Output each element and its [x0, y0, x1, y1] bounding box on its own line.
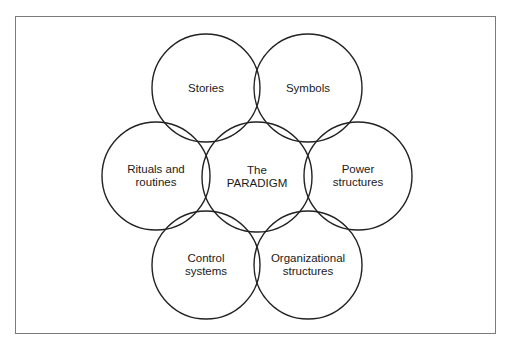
label-line: Symbols	[253, 82, 363, 95]
label-line: Control	[151, 252, 261, 265]
label-line: PARADIGM	[202, 177, 312, 190]
label-paradigm: The PARADIGM	[202, 164, 312, 190]
label-line: structures	[303, 176, 413, 189]
label-power: Power structures	[303, 163, 413, 189]
label-line: Organizational	[253, 252, 363, 265]
label-line: Power	[303, 163, 413, 176]
label-line: Stories	[151, 82, 261, 95]
label-line: routines	[101, 176, 211, 189]
label-line: The	[202, 164, 312, 177]
label-symbols: Symbols	[253, 82, 363, 95]
label-control: Control systems	[151, 252, 261, 278]
label-organizational: Organizational structures	[253, 252, 363, 278]
label-line: systems	[151, 265, 261, 278]
label-stories: Stories	[151, 82, 261, 95]
label-line: Rituals and	[101, 163, 211, 176]
label-rituals: Rituals and routines	[101, 163, 211, 189]
label-line: structures	[253, 265, 363, 278]
